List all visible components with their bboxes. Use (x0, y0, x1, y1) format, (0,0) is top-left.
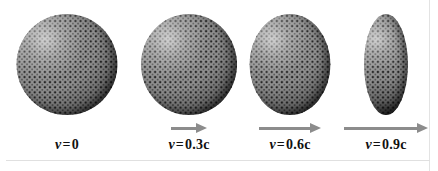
lorentz-contraction-figure: v=0 v=0.3c (0, 0, 438, 171)
velocity-value: 0 (72, 137, 79, 152)
sphere-shading (250, 14, 331, 115)
caption-v03c: v=0.3c (134, 137, 244, 153)
panel-v03c: v=0.3c (134, 0, 244, 171)
velocity-value: 0.3c (185, 137, 210, 152)
arrow-shaft (344, 127, 418, 130)
sphere-shading (141, 14, 237, 115)
arrow-shaft (259, 127, 311, 130)
equals-sign: = (276, 137, 286, 152)
arrow-head-icon (417, 123, 428, 133)
velocity-value: 0.9c (382, 137, 407, 152)
caption-v06c: v=0.6c (244, 137, 336, 153)
panel-v06c: v=0.6c (244, 0, 336, 171)
arrow-head-icon (310, 123, 321, 133)
arrow-head-icon (196, 123, 207, 133)
sphere-3 (364, 14, 408, 115)
equals-sign: = (372, 137, 382, 152)
velocity-arrow-1 (171, 122, 207, 134)
sphere-1 (141, 14, 237, 115)
arrow-shaft (171, 127, 197, 130)
velocity-symbol: v (269, 137, 275, 152)
velocity-arrow-2 (259, 122, 321, 134)
velocity-symbol: v (168, 137, 174, 152)
sphere-shading (17, 14, 118, 115)
panel-v0: v=0 (0, 0, 134, 171)
panel-v09c: v=0.9c (336, 0, 436, 171)
caption-v0: v=0 (0, 137, 134, 153)
sphere-container-2 (250, 8, 331, 120)
sphere-container-0 (17, 8, 118, 120)
equals-sign: = (62, 137, 72, 152)
sphere-2 (250, 14, 331, 115)
sphere-shading (364, 14, 408, 115)
velocity-value: 0.6c (286, 137, 311, 152)
sphere-container-1 (141, 8, 237, 120)
velocity-symbol: v (365, 137, 371, 152)
sphere-container-3 (364, 8, 408, 120)
velocity-arrow-3 (344, 122, 428, 134)
caption-v09c: v=0.9c (336, 137, 436, 153)
velocity-symbol: v (55, 137, 61, 152)
sphere-0 (17, 14, 118, 115)
equals-sign: = (175, 137, 185, 152)
